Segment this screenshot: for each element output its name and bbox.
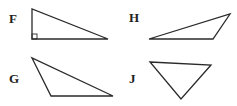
triangle-h: H [129,10,230,39]
triangle-h-shape [149,14,230,39]
label-f: F [9,11,17,26]
triangle-f-shape [32,9,108,39]
triangle-j: J [129,62,211,99]
right-angle-marker [32,34,37,39]
label-h: H [129,10,139,25]
triangles-figure: F H G J [0,0,237,106]
triangle-g-shape [32,58,113,96]
label-g: G [9,71,19,86]
triangle-j-shape [150,62,211,99]
label-j: J [129,71,136,86]
triangle-f: F [9,9,108,39]
triangle-g: G [9,58,113,96]
